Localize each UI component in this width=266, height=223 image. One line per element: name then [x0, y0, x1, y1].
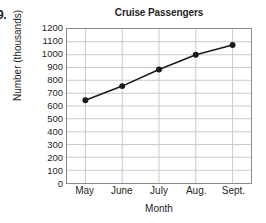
data-point-marker: [193, 52, 199, 58]
data-point-marker: [156, 66, 162, 72]
x-axis-title: Month: [66, 203, 252, 214]
chart-series-line: [67, 29, 251, 183]
x-axis-tick-label: May: [75, 186, 94, 196]
chart-figure: 9. Cruise Passengers Number (thousands) …: [0, 0, 266, 223]
y-axis-tick-label: 200: [30, 153, 63, 163]
item-number-label: 9.: [0, 8, 6, 22]
series-line: [85, 45, 232, 100]
y-axis-tick-label: 700: [30, 88, 63, 98]
data-point-marker: [119, 83, 125, 89]
x-axis-tick-label: Sept.: [222, 186, 245, 196]
x-axis-tick-label: June: [111, 186, 133, 196]
y-axis-tick-label: 300: [30, 140, 63, 150]
x-axis-tick-label: Aug.: [186, 186, 207, 196]
plot-area: [66, 28, 252, 184]
y-axis-tick-label: 1100: [30, 36, 63, 46]
data-point-marker: [82, 97, 88, 103]
y-axis-tick-label: 1200: [30, 23, 63, 33]
y-axis-tick-label: 600: [30, 101, 63, 111]
data-point-marker: [230, 42, 236, 48]
y-axis-tick-labels: 0100200300400500600700800900100011001200: [30, 28, 63, 184]
y-axis-tick-label: 100: [30, 166, 63, 176]
x-axis-tick-label: July: [150, 186, 168, 196]
y-axis-title: Number (thousands): [12, 0, 23, 121]
y-axis-tick-label: 800: [30, 75, 63, 85]
y-axis-tick-label: 900: [30, 62, 63, 72]
y-axis-tick-label: 500: [30, 114, 63, 124]
y-axis-tick-label: 1000: [30, 49, 63, 59]
y-axis-tick-label: 0: [30, 179, 63, 189]
x-axis-tick-labels: MayJuneJulyAug.Sept.: [66, 186, 252, 202]
chart-title: Cruise Passengers: [66, 7, 252, 18]
y-axis-tick-label: 400: [30, 127, 63, 137]
